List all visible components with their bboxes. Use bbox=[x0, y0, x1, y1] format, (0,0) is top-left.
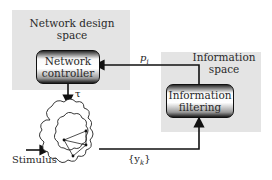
p-feedback-arrow bbox=[95, 65, 199, 84]
output-arrow bbox=[99, 118, 199, 149]
p-label: pi bbox=[140, 52, 149, 66]
stimulus-label: Stimulus bbox=[12, 154, 57, 166]
y-label: {yk} bbox=[128, 153, 151, 167]
information-filtering-box: Information filtering bbox=[166, 84, 234, 118]
tau-label: τ bbox=[75, 88, 81, 99]
network-controller-box: Network controller bbox=[36, 50, 100, 84]
